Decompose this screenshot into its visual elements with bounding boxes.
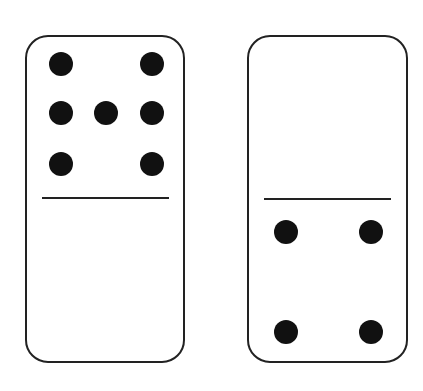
domino-pip (359, 320, 383, 344)
domino-pip (49, 101, 73, 125)
domino-pip (49, 52, 73, 76)
domino-pip (274, 220, 298, 244)
dominoes-figure (0, 0, 423, 391)
domino-left (26, 36, 184, 362)
domino-right (248, 36, 407, 362)
domino-pip (49, 152, 73, 176)
domino-pip (140, 152, 164, 176)
domino-pip (274, 320, 298, 344)
domino-pip (140, 101, 164, 125)
domino-pip (140, 52, 164, 76)
domino-pip (359, 220, 383, 244)
domino-pip (94, 101, 118, 125)
